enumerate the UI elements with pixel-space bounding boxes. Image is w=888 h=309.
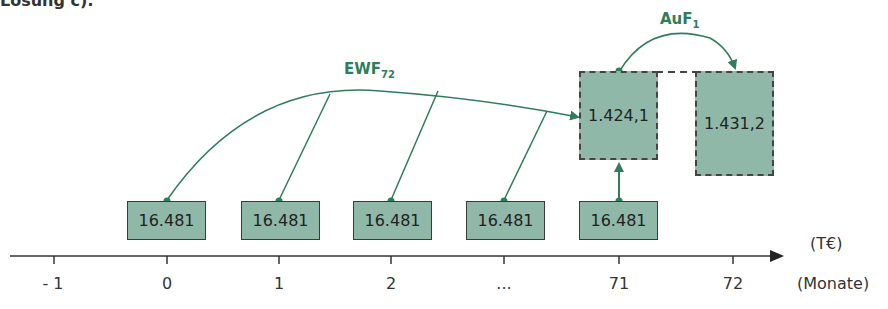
auf-label: AuF1 [660,10,700,30]
payment-box-71: 16.481 [579,201,658,240]
tick-label: 0 [162,274,172,293]
tick-label: 71 [609,274,629,293]
tick-label: - 1 [42,274,63,293]
tick-label: ... [496,274,511,293]
tick-label: 1 [274,274,284,293]
payment-box-1: 16.481 [241,201,320,240]
payment-box-2: 16.481 [353,201,432,240]
payment-box-0: 16.481 [127,201,206,240]
unit-value-label: (T€) [810,234,842,253]
tick-label: 2 [386,274,396,293]
ewf-label: EWF72 [344,60,395,80]
future-value-box-71: 1.424,1 [579,71,658,160]
tick-label: 72 [723,274,743,293]
unit-time-label: (Monate) [797,274,869,293]
payment-box-ellipsis: 16.481 [466,201,545,240]
future-value-box-72: 1.431,2 [695,71,774,176]
